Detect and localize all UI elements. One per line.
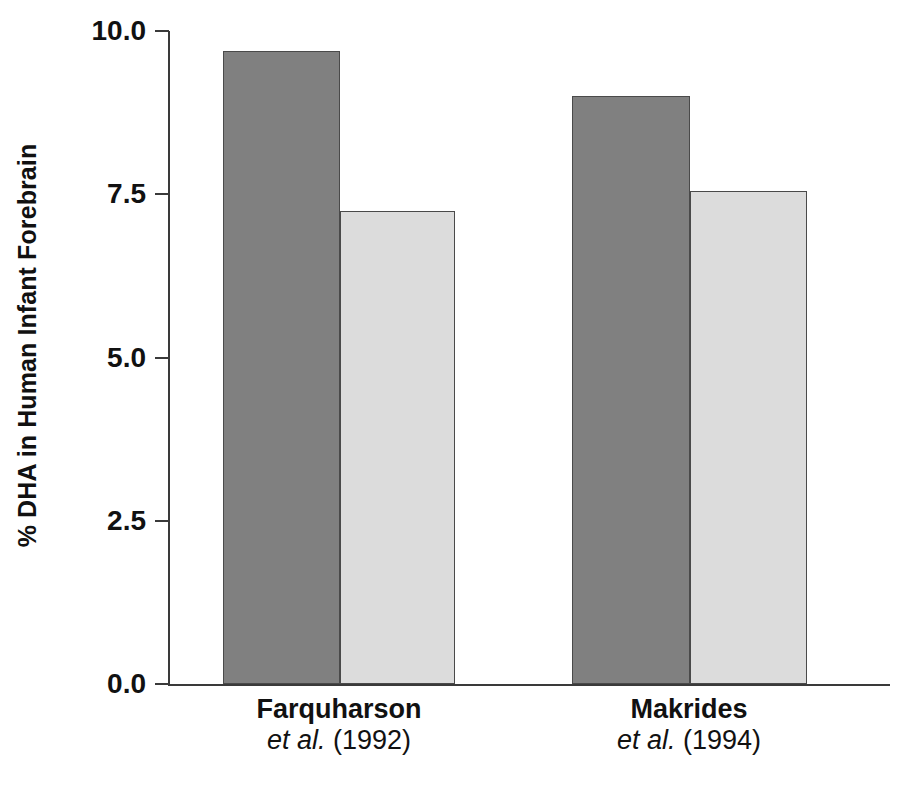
bar-farquharson-dark	[223, 51, 340, 684]
x-axis-label-name: Farquharson	[169, 694, 509, 725]
bar-farquharson-light	[340, 211, 455, 684]
y-axis-tick-labels: 10.07.55.02.50.0	[36, 0, 146, 802]
y-axis-tick-label: 2.5	[42, 505, 146, 537]
y-axis-tick-label: 7.5	[42, 178, 146, 210]
y-axis-tick-mark	[155, 683, 169, 685]
x-axis-label-group-1: Farquharsonet al. (1992)	[169, 694, 509, 757]
y-axis-tick-label: 5.0	[42, 342, 146, 374]
x-axis-label-group-2: Makrideset al. (1994)	[519, 694, 859, 757]
y-axis-tick-mark	[155, 193, 169, 195]
plot-area	[168, 31, 888, 684]
x-axis-label-name: Makrides	[519, 694, 859, 725]
bar-makrides-light	[690, 191, 807, 684]
y-axis-tick-label: 10.0	[42, 15, 146, 47]
y-axis-tick-mark	[155, 357, 169, 359]
y-axis-tick-mark	[155, 30, 169, 32]
bar-chart: % DHA in Human Infant Forebrain 10.07.55…	[0, 0, 898, 802]
x-axis-label-citation: et al. (1994)	[519, 725, 859, 756]
y-axis-tick-mark	[155, 520, 169, 522]
y-axis-tick-label: 0.0	[42, 668, 146, 700]
x-axis-line	[168, 684, 890, 686]
bar-makrides-dark	[572, 96, 690, 684]
x-axis-label-citation: et al. (1992)	[169, 725, 509, 756]
